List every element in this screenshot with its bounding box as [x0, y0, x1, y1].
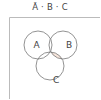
set-b-label: B — [66, 40, 72, 50]
set-a-label: A — [34, 40, 41, 50]
set-b-circle — [49, 31, 77, 59]
universe-frame — [10, 18, 101, 100]
venn-diagram: A B C — [0, 0, 100, 99]
set-c-circle — [36, 52, 64, 80]
set-c-label: C — [53, 75, 59, 85]
